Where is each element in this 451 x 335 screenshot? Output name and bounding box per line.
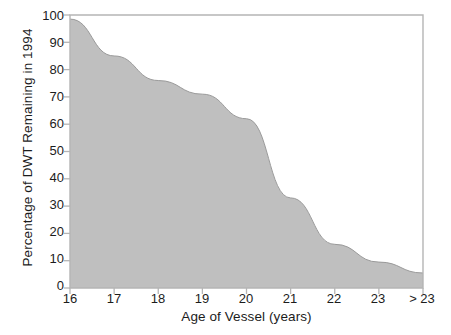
area-series-group — [70, 19, 423, 288]
y-tick-label: 90 — [30, 36, 64, 49]
y-tick-label: 80 — [30, 63, 64, 76]
y-tick-label: 30 — [30, 198, 64, 211]
plot-area — [0, 0, 451, 335]
x-tick-label: 16 — [47, 292, 93, 306]
x-axis-title: Age of Vessel (years) — [70, 309, 423, 324]
y-tick-label: 10 — [30, 252, 64, 265]
x-tick-label: 17 — [91, 292, 137, 306]
x-tick-label: 19 — [179, 292, 225, 306]
chart-figure: Percentage of DWT Remaining in 1994 100 … — [0, 0, 451, 335]
x-tick-label: 21 — [267, 292, 313, 306]
x-tick-label: 23 — [355, 292, 401, 306]
x-tick-label: 20 — [223, 292, 269, 306]
y-tick-label: 60 — [30, 117, 64, 130]
y-axis-tick-labels: 100 90 80 70 60 50 40 30 20 10 0 — [28, 0, 64, 335]
y-tick-label: 0 — [30, 279, 64, 292]
y-tick-label: 50 — [30, 144, 64, 157]
x-tick-label: > 23 — [399, 292, 445, 306]
y-tick-label: 40 — [30, 171, 64, 184]
x-tick-label: 18 — [135, 292, 181, 306]
y-tick-label: 20 — [30, 225, 64, 238]
y-tick-label: 70 — [30, 90, 64, 103]
y-tick-label: 100 — [30, 9, 64, 22]
area-series-fill — [70, 19, 423, 288]
x-tick-label: 22 — [311, 292, 357, 306]
